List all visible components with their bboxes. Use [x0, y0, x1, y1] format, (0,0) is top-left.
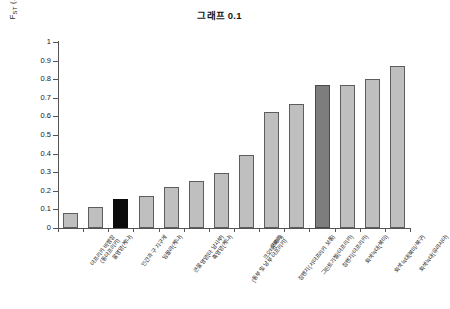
x-axis-tick — [58, 228, 59, 232]
bar — [139, 196, 154, 228]
y-axis-tick-label-wrap: 0.3 — [0, 168, 51, 176]
y-axis-tick-label-wrap: 0.9 — [0, 57, 51, 65]
x-axis-tick — [410, 228, 411, 232]
bar — [340, 85, 355, 228]
bar — [264, 112, 279, 228]
x-axis-tick — [184, 228, 185, 232]
y-axis-tick-label-wrap: 0.6 — [0, 112, 51, 120]
bar — [88, 207, 103, 228]
bar — [239, 155, 254, 228]
x-axis-tick — [360, 228, 361, 232]
bar — [365, 79, 380, 228]
bar — [214, 173, 229, 228]
y-axis-tick-label-wrap: 1 — [0, 38, 51, 46]
y-axis-tick-label: 0.3 — [17, 168, 51, 176]
y-axis-tick-label-wrap: 0 — [0, 224, 51, 232]
bar — [164, 187, 179, 228]
x-axis-tick — [108, 228, 109, 232]
bar — [63, 213, 78, 228]
y-axis-tick-label: 0.5 — [17, 131, 51, 139]
y-axis-tick-label-wrap: 0.2 — [0, 187, 51, 195]
y-axis-tick-label-wrap: 0.5 — [0, 131, 51, 139]
y-axis-tick-label: 0.4 — [17, 150, 51, 158]
y-axis-tick-label-wrap: 0.4 — [0, 150, 51, 158]
y-axis-tick-label: 0.7 — [17, 94, 51, 102]
y-axis-tick-label: 0.2 — [17, 187, 51, 195]
bar — [189, 181, 204, 228]
y-axis-tick-label: 0.6 — [17, 112, 51, 120]
y-axis-tick-label-wrap: 0.1 — [0, 205, 51, 213]
y-axis-tick-label: 0 — [17, 224, 51, 232]
bar — [289, 104, 304, 228]
x-axis-tick — [159, 228, 160, 232]
x-axis-tick — [133, 228, 134, 232]
bar — [113, 199, 128, 228]
x-axis-tick — [284, 228, 285, 232]
bar — [390, 66, 405, 228]
x-axis-tick — [209, 228, 210, 232]
y-axis-tick-label-wrap: 0.8 — [0, 75, 51, 83]
chart-title: 그래프 0.1 — [0, 8, 439, 22]
y-axis-line — [58, 41, 59, 229]
y-axis-tick-label: 1 — [17, 38, 51, 46]
y-axis-tick-label-wrap: 0.7 — [0, 94, 51, 102]
y-axis-tick-label: 0.1 — [17, 205, 51, 213]
x-axis-tick — [385, 228, 386, 232]
x-axis-tick — [309, 228, 310, 232]
bar — [315, 85, 330, 228]
x-axis-tick — [234, 228, 235, 232]
y-axis-tick-label: 0.9 — [17, 57, 51, 65]
x-axis-tick — [83, 228, 84, 232]
y-axis-tick-label: 0.8 — [17, 75, 51, 83]
x-axis-tick — [259, 228, 260, 232]
x-axis-tick — [335, 228, 336, 232]
